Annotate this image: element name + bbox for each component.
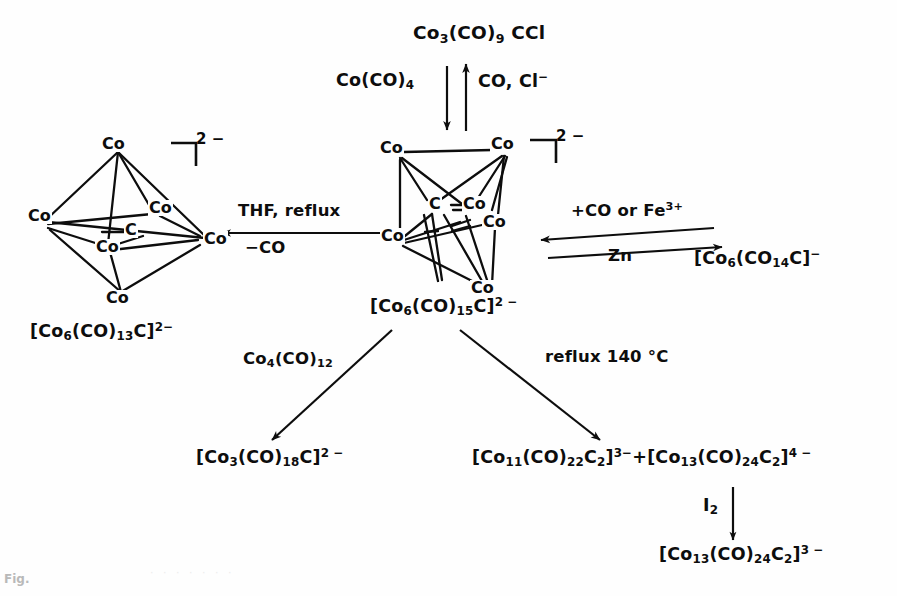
down-arrow-reagent-label: Co(CO)4 bbox=[336, 72, 414, 92]
bottom-left-reaction-arrow bbox=[272, 330, 392, 440]
left-arrow-condition-top: THF, reflux bbox=[238, 203, 340, 220]
center-cluster-vertex-co-midleft: Co bbox=[380, 228, 405, 244]
center-cluster-charge: 2 − bbox=[556, 127, 584, 145]
left-cluster-vertex-co-back: Co bbox=[148, 200, 173, 216]
left-cluster-interstitial-carbon: C bbox=[124, 222, 138, 238]
iodine-reagent-label: I2 bbox=[703, 497, 718, 517]
left-cluster-charge: 2 − bbox=[196, 130, 224, 148]
center-cluster-vertex-co-inner-lower: Co bbox=[482, 214, 507, 230]
left-cluster-vertex-co-top: Co bbox=[101, 136, 126, 152]
center-cluster-vertex-co-inner-upper: Co bbox=[462, 196, 487, 212]
center-cluster-vertex-co-topright: Co bbox=[490, 136, 515, 152]
bottom-right-arrow-condition: reflux 140 °C bbox=[545, 349, 668, 366]
right-arrow-condition-top: +CO or Fe3+ bbox=[571, 201, 683, 219]
final-product-formula: [Co13(CO)24C2]3 − bbox=[659, 545, 824, 566]
bottom-left-arrow-reagent: Co4(CO)12 bbox=[243, 351, 333, 369]
center-cluster-interstitial-carbon: C bbox=[428, 196, 442, 212]
right-arrow-condition-bottom: Zn bbox=[608, 248, 632, 265]
left-arrow-condition-bottom: −CO bbox=[245, 240, 286, 257]
left-cluster-vertex-co-left: Co bbox=[27, 208, 52, 224]
top-reagent-formula: Co3(CO)9 CCl bbox=[413, 24, 545, 45]
center-cluster-vertex-co-topleft: Co bbox=[379, 140, 404, 156]
figure-caption: Fig. bbox=[4, 572, 29, 586]
up-arrow-reagent-label: CO, Cl− bbox=[478, 72, 548, 90]
left-cluster-vertex-co-front: Co bbox=[95, 239, 120, 255]
bottom-right-products-formula: [Co11(CO)22C2]3−+[Co13(CO)24C2]4 − bbox=[472, 448, 812, 469]
top-reversible-arrows bbox=[447, 64, 466, 131]
reaction-scheme-figure: Co Co Co Co Co Co C 2 − Co Co Co Co Co C… bbox=[0, 0, 897, 596]
left-cluster-vertex-co-bottom: Co bbox=[105, 290, 130, 306]
center-cluster-formula: [Co6(CO)15C]2 − bbox=[370, 297, 518, 318]
left-product-formula: [Co6(CO)13C]2− bbox=[30, 322, 173, 343]
bottom-left-product-formula: [Co3(CO)18C]2 − bbox=[196, 448, 344, 469]
center-cluster-vertex-co-bottom: Co bbox=[470, 280, 495, 296]
right-product-formula: [Co6(CO14C]− bbox=[694, 249, 821, 270]
scan-artifact: · · · · · · · bbox=[150, 566, 234, 579]
left-cluster-vertex-co-right: Co bbox=[203, 231, 228, 247]
